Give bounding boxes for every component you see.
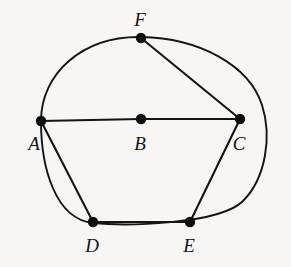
segment-f-c (141, 38, 240, 119)
vertex-label-e: E (182, 235, 195, 256)
vertex-label-f: F (133, 9, 146, 30)
vertex-label-b: B (134, 133, 146, 154)
figure-canvas: A B C D E F (0, 0, 291, 267)
vertex-dot-d (88, 217, 98, 227)
segment-a-d (41, 121, 93, 222)
vertex-dot-e (185, 217, 195, 227)
geometry-figure: A B C D E F (0, 0, 291, 267)
vertex-dot-c (235, 114, 245, 124)
segment-a-b (41, 119, 141, 121)
vertex-dot-a (36, 116, 46, 126)
vertex-dot-b (136, 114, 146, 124)
vertex-label-c: C (233, 133, 246, 154)
vertex-dot-f (136, 33, 146, 43)
vertex-label-a: A (26, 133, 40, 154)
vertex-label-d: D (84, 235, 99, 256)
outer-oval-curve (41, 37, 267, 224)
